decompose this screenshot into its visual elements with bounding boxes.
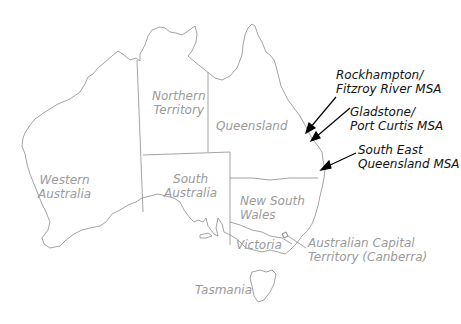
label-line: Victoria [236, 238, 282, 252]
border-wa [137, 60, 143, 212]
label-line: Western [38, 173, 91, 187]
act-leader-line [288, 236, 306, 248]
label-tasmania: Tasmania [195, 283, 252, 297]
label-line: Territory [152, 103, 205, 117]
annotation-line: Rockhampton/ [336, 68, 442, 82]
label-line: Tasmania [195, 283, 252, 297]
annotation-line: Queensland MSA [358, 157, 460, 171]
label-new-south-wales: New South Wales [240, 194, 305, 222]
label-queensland: Queensland [216, 119, 288, 133]
annotation-rockhampton-msa: Rockhampton/ Fitzroy River MSA [336, 68, 442, 96]
label-line: Wales [240, 208, 305, 222]
label-line: Australia [164, 186, 217, 200]
annotation-line: Fitzroy River MSA [336, 82, 442, 96]
label-line: Territory (Canberra) [308, 250, 427, 264]
border-nt-sa [143, 152, 230, 155]
label-line: Australia [38, 187, 91, 201]
label-western-australia: Western Australia [38, 173, 91, 201]
annotation-gladstone-msa: Gladstone/ Port Curtis MSA [350, 105, 443, 133]
seq-arrow-head [321, 161, 331, 170]
annotation-line: Port Curtis MSA [350, 119, 443, 133]
label-line: Queensland [216, 119, 288, 133]
seq-arrow-line [328, 153, 356, 166]
kangaroo-island-outline [200, 233, 212, 238]
label-south-australia: South Australia [164, 172, 217, 200]
gladstone-arrow-head [311, 132, 320, 141]
gladstone-arrow-line [316, 108, 350, 137]
label-line: New South [240, 194, 305, 208]
label-line: South [164, 172, 217, 186]
border-qld-nsw [230, 178, 318, 180]
label-line: Australian Capital [308, 236, 427, 250]
annotation-line: South East [358, 143, 460, 157]
act-outline [282, 232, 288, 238]
label-act: Australian Capital Territory (Canberra) [308, 236, 427, 264]
label-northern-territory: Northern Territory [152, 89, 205, 117]
label-victoria: Victoria [236, 238, 282, 252]
annotation-line: Gladstone/ [350, 105, 443, 119]
annotation-seq-msa: South East Queensland MSA [358, 143, 460, 171]
label-line: Northern [152, 89, 205, 103]
tasmania-outline [250, 270, 276, 302]
